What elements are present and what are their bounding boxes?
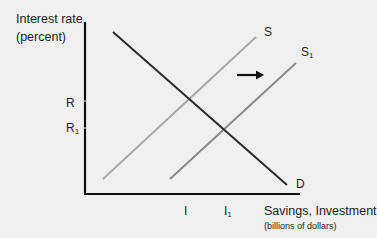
x-tick-i: I xyxy=(184,205,187,217)
r1-base: R xyxy=(66,121,75,135)
y-axis-subtitle: (percent) xyxy=(16,31,66,44)
y-tick-r: R xyxy=(66,97,75,109)
s1-base: S xyxy=(301,45,309,59)
x-axis-title: Savings, Investment xyxy=(264,205,377,218)
supply-curve-s xyxy=(103,37,256,179)
shift-right-arrow-icon xyxy=(237,71,264,80)
x-axis-subtitle: (billions of dollars) xyxy=(264,222,337,231)
label-s1: S1 xyxy=(301,46,313,60)
r1-sub: 1 xyxy=(75,127,79,136)
s1-sub: 1 xyxy=(309,51,313,60)
label-d: D xyxy=(296,178,305,190)
i1-sub: 1 xyxy=(227,210,231,219)
x-tick-i1: I1 xyxy=(224,205,232,219)
y-axis-title: Interest rate xyxy=(16,13,83,26)
supply-curve-s1 xyxy=(170,63,296,179)
demand-curve-d xyxy=(113,32,287,185)
y-tick-r1: R1 xyxy=(66,122,79,136)
label-s: S xyxy=(264,26,272,38)
